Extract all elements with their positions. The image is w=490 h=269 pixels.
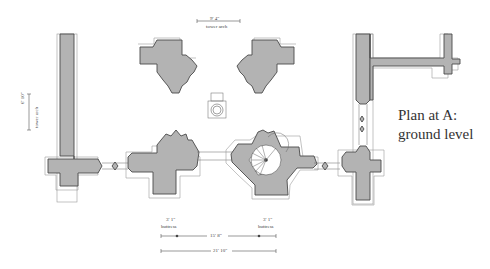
dim-label-tower-arch-left-value: 6' 10"	[20, 92, 25, 104]
left-connector	[102, 162, 128, 170]
middle-connector	[197, 152, 236, 160]
dim-label-buttress-right-value: 3' 1"	[263, 217, 272, 222]
stair-pier	[226, 130, 318, 199]
plan-title-line1: Plan at A:	[398, 106, 473, 125]
left-pier	[126, 130, 200, 198]
plan-title: Plan at A: ground level	[398, 106, 473, 144]
dim-label-tower-arch-left: tower arch	[34, 107, 39, 128]
dim-label-overall-span: 21' 10"	[213, 248, 227, 253]
dim-label-buttress-right: buttress	[258, 224, 274, 229]
upper-right-pier	[237, 38, 296, 93]
dim-label-tower-arch-top-value: 9' 4"	[210, 16, 219, 21]
upper-left-pier	[138, 38, 197, 93]
plan-title-line2: ground level	[398, 125, 473, 144]
central-column	[208, 93, 226, 118]
dim-label-buttress-left-value: 3' 1"	[166, 217, 175, 222]
dim-label-tower-arch-top: tower arch	[206, 24, 227, 29]
left-wall	[45, 34, 102, 202]
dimension-tower-arch-left	[27, 94, 31, 130]
upper-right-wall	[370, 34, 460, 100]
dim-label-buttress-left: buttress	[161, 224, 177, 229]
dim-label-inner-span: 15' 8"	[210, 233, 222, 238]
